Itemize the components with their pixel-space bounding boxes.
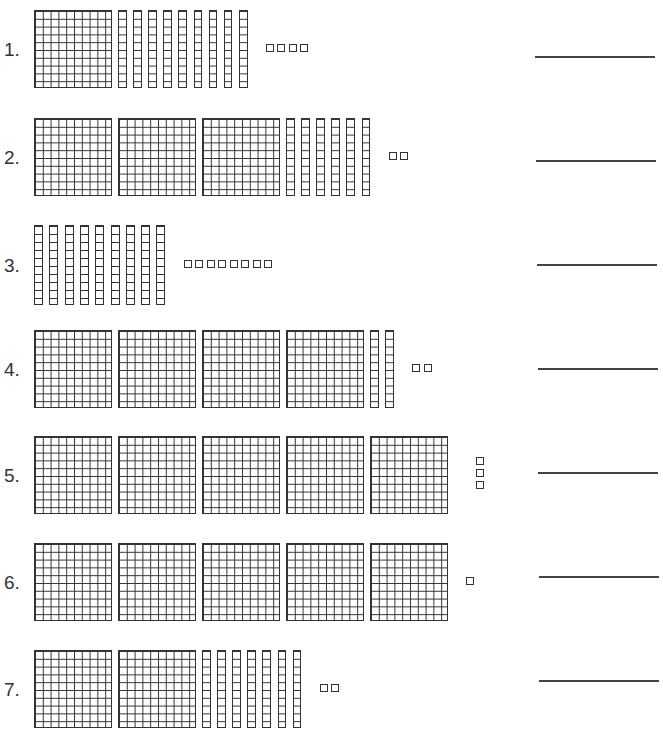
answer-line-1[interactable] [535, 56, 655, 58]
problem-5: 5. [0, 436, 663, 514]
one-cube [476, 469, 484, 477]
ten-rod [95, 225, 104, 305]
one-cube [331, 684, 339, 692]
ten-rod [385, 330, 394, 408]
ten-rod [362, 118, 371, 196]
answer-line-6[interactable] [539, 576, 659, 578]
one-cube [466, 577, 474, 585]
ten-rod [316, 118, 325, 196]
ten-rod [49, 225, 58, 305]
answer-line-7[interactable] [539, 680, 659, 682]
problem-number: 1. [4, 39, 20, 61]
hundred-flat [202, 330, 280, 408]
ten-rod [217, 650, 226, 728]
hundred-flat [286, 330, 364, 408]
one-cube [241, 260, 249, 268]
ten-rod [247, 650, 256, 728]
one-cube [476, 457, 484, 465]
one-cube [195, 260, 203, 268]
answer-line-2[interactable] [536, 160, 656, 162]
hundred-flat [34, 436, 112, 514]
ten-rod [163, 10, 172, 88]
ten-rod [346, 118, 355, 196]
ten-rod [126, 225, 135, 305]
hundred-flat [34, 118, 112, 196]
ten-rod [232, 650, 241, 728]
problem-number: 7. [4, 679, 20, 701]
one-cube [253, 260, 261, 268]
ten-rod [65, 225, 74, 305]
ten-rod [224, 10, 233, 88]
ten-rod [148, 10, 157, 88]
hundred-flat [34, 10, 112, 88]
problem-6: 6. [0, 543, 663, 621]
one-cube [389, 152, 397, 160]
hundred-flat [370, 436, 448, 514]
problem-2: 2. [0, 118, 663, 196]
problem-number: 4. [4, 359, 20, 381]
hundred-flat [118, 650, 196, 728]
problem-number: 6. [4, 572, 20, 594]
one-cube [218, 260, 226, 268]
hundred-flat [118, 543, 196, 621]
ten-rod [278, 650, 287, 728]
one-cube [424, 364, 432, 372]
hundred-flat [118, 330, 196, 408]
ten-rod [133, 10, 142, 88]
hundred-flat [202, 118, 280, 196]
ten-rod [293, 650, 302, 728]
ten-rod [262, 650, 271, 728]
one-cube [476, 481, 484, 489]
ten-rod [178, 10, 187, 88]
ten-rod [331, 118, 340, 196]
ten-rod [209, 10, 218, 88]
ten-rod [194, 10, 203, 88]
one-cube [266, 44, 274, 52]
one-cube [289, 44, 297, 52]
hundred-flat [202, 436, 280, 514]
ten-rod [301, 118, 310, 196]
one-cube [300, 44, 308, 52]
problem-number: 2. [4, 147, 20, 169]
ten-rod [156, 225, 165, 305]
hundred-flat [286, 543, 364, 621]
hundred-flat [34, 650, 112, 728]
ten-rod [202, 650, 211, 728]
one-cube [230, 260, 238, 268]
ten-rod [80, 225, 89, 305]
hundred-flat [286, 436, 364, 514]
one-cube [400, 152, 408, 160]
one-cube [320, 684, 328, 692]
answer-line-4[interactable] [538, 368, 658, 370]
problem-7: 7. [0, 650, 663, 728]
ten-rod [118, 10, 127, 88]
ten-rod [370, 330, 379, 408]
problem-number: 5. [4, 465, 20, 487]
hundred-flat [118, 118, 196, 196]
ten-rod [34, 225, 43, 305]
one-cube [184, 260, 192, 268]
ten-rod [141, 225, 150, 305]
ten-rod [111, 225, 120, 305]
hundred-flat [34, 543, 112, 621]
one-cube [412, 364, 420, 372]
hundred-flat [202, 543, 280, 621]
one-cube [277, 44, 285, 52]
problem-number: 3. [4, 255, 20, 277]
problem-1: 1. [0, 10, 663, 88]
ten-rod [286, 118, 295, 196]
one-cube [207, 260, 215, 268]
one-cube [264, 260, 272, 268]
hundred-flat [118, 436, 196, 514]
hundred-flat [370, 543, 448, 621]
hundred-flat [34, 330, 112, 408]
answer-line-3[interactable] [537, 264, 657, 266]
ten-rod [239, 10, 248, 88]
answer-line-5[interactable] [538, 472, 658, 474]
